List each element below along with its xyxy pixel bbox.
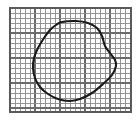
graph-paper-figure: [0, 0, 139, 122]
figure-canvas: [0, 0, 139, 122]
grid-background: [10, 8, 131, 112]
